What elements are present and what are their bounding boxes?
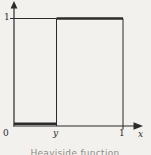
x-axis-label: x	[138, 130, 143, 139]
origin-label: 0	[3, 129, 9, 138]
step-position-label: y	[53, 129, 58, 138]
y-axis-tick-label-1: 1	[4, 13, 10, 22]
heaviside-figure: 1 0 y 1 x Heaviside function	[0, 0, 151, 155]
figure-caption: Heaviside function	[8, 148, 142, 155]
plot-canvas	[0, 0, 151, 155]
x-axis-tick-label-1: 1	[119, 129, 125, 138]
